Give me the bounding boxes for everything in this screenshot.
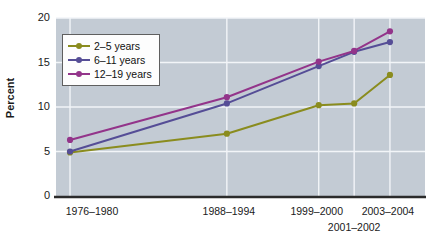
x-axis-tick-0: 1976–1980	[58, 206, 126, 217]
y-axis-tick-20: 20	[20, 12, 50, 23]
legend-item-6-11-years: 6–11 years	[68, 53, 152, 67]
x-axis-tick-2: 1999–2000	[283, 206, 351, 217]
legend-label-6-11-years: 6–11 years	[94, 54, 145, 66]
chart-container: Percent 05101520 1976–19801988–19941999–…	[0, 0, 443, 246]
legend-marker-6-11-years	[68, 55, 90, 65]
y-axis-tick-15: 15	[20, 57, 50, 68]
legend-item-12-19-years: 12–19 years	[68, 67, 152, 81]
y-axis-tick-5: 5	[20, 146, 50, 157]
legend-item-2-5-years: 2–5 years	[68, 39, 152, 53]
chart-legend: 2–5 years 6–11 years 12–19 years	[62, 34, 160, 86]
y-axis-title: Percent	[4, 68, 16, 128]
y-axis-tick-10: 10	[20, 101, 50, 112]
legend-marker-2-5-years	[68, 41, 90, 51]
x-axis-tick-2001-2002: 2001–2002	[320, 222, 388, 233]
legend-label-2-5-years: 2–5 years	[94, 40, 140, 52]
legend-marker-12-19-years	[68, 69, 90, 79]
legend-label-12-19-years: 12–19 years	[94, 68, 152, 80]
y-axis-tick-0: 0	[20, 190, 50, 201]
y-axis-tick-labels: 05101520	[18, 0, 50, 246]
x-axis-tick-1: 1988–1994	[195, 206, 263, 217]
x-axis-tick-3: 2003–2004	[354, 206, 422, 217]
